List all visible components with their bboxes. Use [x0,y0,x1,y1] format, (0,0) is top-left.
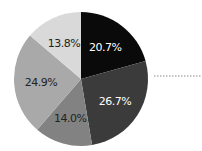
slice-label: 24.9% [25,76,57,89]
slice-label: 20.7% [89,41,121,54]
slice-label: 14.0% [54,112,86,125]
slice-label: 26.7% [99,95,131,108]
slice-label: 13.8% [48,37,80,50]
pie-chart: 20.7%26.7%14.0%24.9%13.8% [0,0,202,151]
